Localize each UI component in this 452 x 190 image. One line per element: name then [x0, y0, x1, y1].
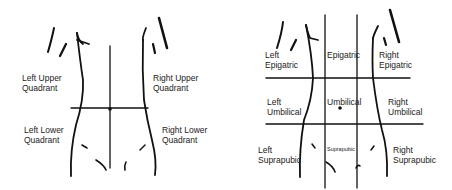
label-right-suprapubic: Right Suprapubic — [393, 145, 436, 165]
label-right-umbilical: Right Umbilical — [388, 97, 422, 117]
label-left-lower-quadrant: Left Lower Quadrant — [24, 125, 64, 145]
quadrant-lines — [71, 46, 148, 168]
label-right-upper-quadrant: Right Upper Quadrant — [153, 73, 198, 93]
label-left-umbilical: Left Umbilical — [267, 97, 301, 117]
quadrant-torso — [48, 18, 167, 176]
label-right-lower-quadrant: Right Lower Quadrant — [162, 125, 207, 145]
label-epigastric: Epigatric — [327, 50, 360, 60]
label-left-suprapubic: Left Suprapubic — [258, 145, 301, 165]
umbilicus-dot — [108, 107, 112, 111]
label-umbilical: Umbilical — [327, 97, 361, 107]
label-left-upper-quadrant: Left Upper Quadrant — [22, 73, 62, 93]
label-right-epigastric: Right Epigatric — [379, 50, 412, 70]
label-suprapubic: Suprapubic — [327, 146, 355, 152]
label-left-epigastric: Left Epigatric — [265, 50, 298, 70]
abdomen-diagrams — [0, 0, 452, 190]
